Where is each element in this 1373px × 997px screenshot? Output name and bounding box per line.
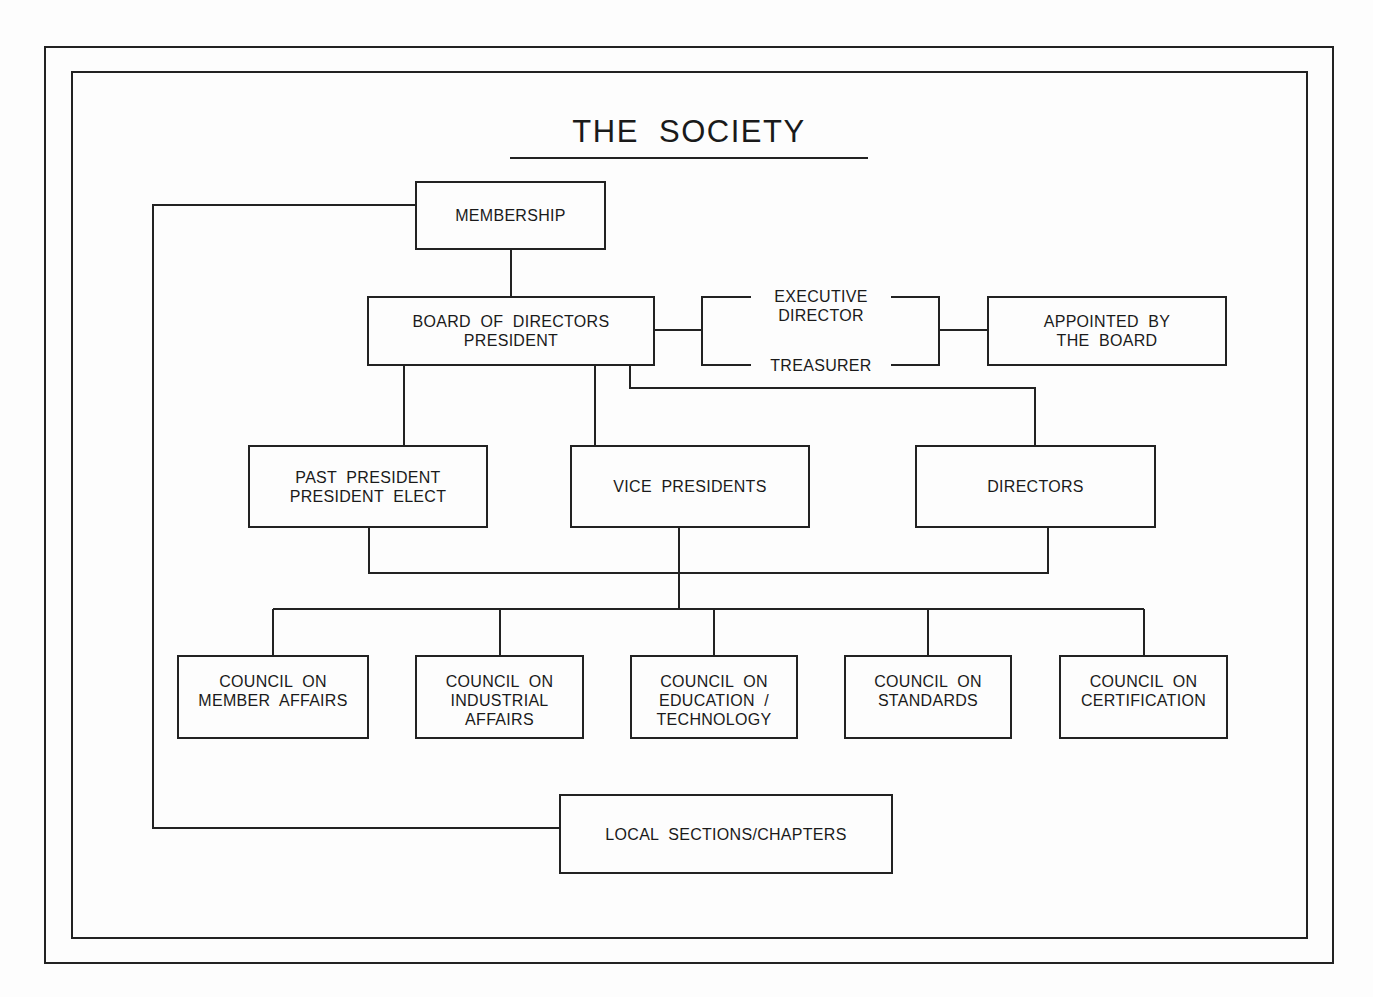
node-council-standards: COUNCIL ON STANDARDS — [844, 655, 1012, 739]
node-vice-presidents-label: VICE PRESIDENTS — [613, 477, 766, 496]
council-member-line2: MEMBER AFFAIRS — [198, 691, 347, 710]
node-appointed-by-board: APPOINTED BY THE BOARD — [987, 296, 1227, 366]
council-education-line3: TECHNOLOGY — [656, 710, 771, 729]
council-member-line1: COUNCIL ON — [219, 672, 327, 691]
node-appointed-line2: THE BOARD — [1057, 331, 1158, 350]
node-board-line1: BOARD OF DIRECTORS — [413, 312, 610, 331]
node-past-president-line1: PAST PRESIDENT — [295, 468, 440, 487]
council-certification-line1: COUNCIL ON — [1090, 672, 1198, 691]
council-education-line2: EDUCATION / — [659, 691, 769, 710]
node-membership-label: MEMBERSHIP — [455, 206, 566, 225]
node-council-member-affairs: COUNCIL ON MEMBER AFFAIRS — [177, 655, 369, 739]
node-membership: MEMBERSHIP — [415, 181, 606, 250]
node-executive-director: EXECUTIVE DIRECTOR — [751, 287, 891, 325]
node-council-certification: COUNCIL ON CERTIFICATION — [1059, 655, 1228, 739]
council-standards-line1: COUNCIL ON — [874, 672, 982, 691]
node-council-education-technology: COUNCIL ON EDUCATION / TECHNOLOGY — [630, 655, 798, 739]
node-board-of-directors: BOARD OF DIRECTORS PRESIDENT — [367, 296, 655, 366]
node-vice-presidents: VICE PRESIDENTS — [570, 445, 810, 528]
node-board-line2: PRESIDENT — [464, 331, 558, 350]
council-certification-line2: CERTIFICATION — [1081, 691, 1206, 710]
node-treasurer: TREASURER — [751, 356, 891, 375]
council-industrial-line3: AFFAIRS — [465, 710, 534, 729]
node-treasurer-label: TREASURER — [751, 356, 891, 375]
node-executive-line2: DIRECTOR — [751, 306, 891, 325]
node-executive-line1: EXECUTIVE — [751, 287, 891, 306]
node-past-president-line2: PRESIDENT ELECT — [290, 487, 447, 506]
node-directors-label: DIRECTORS — [987, 477, 1084, 496]
node-past-president: PAST PRESIDENT PRESIDENT ELECT — [248, 445, 488, 528]
node-appointed-line1: APPOINTED BY — [1044, 312, 1171, 331]
council-industrial-line1: COUNCIL ON — [446, 672, 554, 691]
node-directors: DIRECTORS — [915, 445, 1156, 528]
node-local-sections-chapters: LOCAL SECTIONS/CHAPTERS — [559, 794, 893, 874]
council-standards-line2: STANDARDS — [878, 691, 978, 710]
node-council-industrial-affairs: COUNCIL ON INDUSTRIAL AFFAIRS — [415, 655, 584, 739]
node-local-sections-label: LOCAL SECTIONS/CHAPTERS — [605, 825, 846, 844]
council-education-line1: COUNCIL ON — [660, 672, 768, 691]
council-industrial-line2: INDUSTRIAL — [450, 691, 548, 710]
